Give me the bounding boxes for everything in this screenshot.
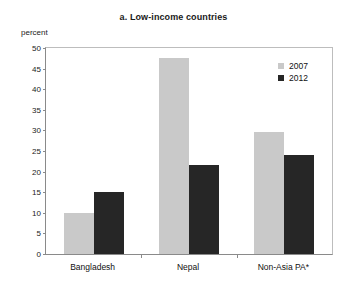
legend-label-2007: 2007 [289, 61, 308, 71]
y-axis-tick-mark [43, 213, 46, 214]
y-axis-tick-mark [43, 48, 46, 49]
x-axis-category-label: Non-Asia PA* [258, 262, 309, 272]
legend-item-2007: 2007 [278, 60, 308, 72]
x-axis-category-separator [237, 254, 238, 258]
y-axis-tick-label: 20 [32, 167, 41, 176]
y-axis-tick-mark [43, 192, 46, 193]
y-axis-tick-label: 0 [37, 250, 41, 259]
bar-bangladesh-2012 [94, 192, 124, 254]
chart-title: a. Low-income countries [0, 12, 347, 22]
y-axis-tick-label: 25 [32, 147, 41, 156]
y-axis-tick-label: 30 [32, 126, 41, 135]
y-axis-unit-label: percent [21, 28, 48, 37]
y-axis-tick-mark [43, 172, 46, 173]
y-axis-tick-mark [43, 151, 46, 152]
x-axis-category-separator [141, 254, 142, 258]
chart-legend: 2007 2012 [278, 60, 308, 84]
legend-item-2012: 2012 [278, 72, 308, 84]
y-axis-tick-mark [43, 110, 46, 111]
legend-swatch-2012-icon [278, 75, 284, 81]
bar-non-asia-pa-2012 [284, 155, 314, 254]
y-axis-tick-label: 5 [37, 229, 41, 238]
bar-bangladesh-2007 [64, 213, 94, 254]
x-axis-category-label: Bangladesh [70, 262, 115, 272]
legend-label-2012: 2012 [289, 73, 308, 83]
y-axis-tick-label: 40 [32, 85, 41, 94]
y-axis-tick-label: 35 [32, 105, 41, 114]
y-axis-tick-mark [43, 130, 46, 131]
y-axis-tick-mark [43, 233, 46, 234]
bar-nepal-2012 [189, 165, 219, 254]
x-axis-category-label: Nepal [177, 262, 199, 272]
y-axis-tick-label: 10 [32, 208, 41, 217]
y-axis-tick-mark [43, 254, 46, 255]
bar-non-asia-pa-2007 [254, 132, 284, 254]
y-axis-tick-mark [43, 89, 46, 90]
y-axis-tick-label: 50 [32, 44, 41, 53]
legend-swatch-2007-icon [278, 63, 284, 69]
y-axis-tick-label: 15 [32, 188, 41, 197]
y-axis-tick-label: 45 [32, 64, 41, 73]
bar-nepal-2007 [159, 58, 189, 254]
cut-off-header: 2007 and 2012 [0, 0, 347, 2]
y-axis-tick-mark [43, 69, 46, 70]
